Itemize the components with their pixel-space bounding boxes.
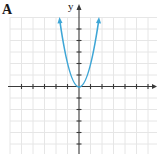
grid [10, 17, 157, 154]
y-axis [77, 8, 82, 154]
x-axis-arrow-icon [152, 84, 157, 89]
parabola-chart [0, 0, 157, 154]
y-axis-arrow-icon [77, 4, 82, 10]
